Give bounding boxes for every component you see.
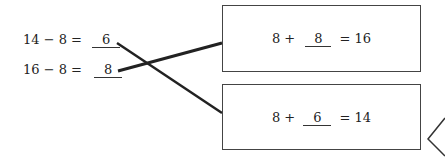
line-16-8-to-box-16	[118, 43, 222, 71]
equation-expression: 14 − 8 =	[23, 32, 82, 47]
left-equation-2: 16 − 8 = 8	[23, 62, 122, 78]
left-equation-1: 14 − 8 = 6	[23, 32, 120, 48]
partial-shape-edge	[428, 118, 445, 156]
line-14-8-to-box-14	[117, 43, 222, 113]
box-suffix: = 16	[340, 31, 372, 46]
box-suffix: = 14	[340, 110, 372, 125]
box-equation: 8 + 8 = 16	[223, 31, 420, 47]
box-equation: 8 + 6 = 14	[223, 110, 420, 126]
equation-expression: 16 − 8 =	[23, 62, 82, 77]
answer-box-2[interactable]: 8 + 6 = 14	[222, 84, 421, 150]
box-prefix: 8 +	[272, 110, 295, 125]
answer-blank[interactable]: 6	[303, 111, 331, 126]
answer-blank[interactable]: 8	[94, 63, 122, 78]
box-prefix: 8 +	[272, 31, 295, 46]
answer-box-1[interactable]: 8 + 8 = 16	[222, 5, 421, 72]
answer-blank[interactable]: 8	[305, 32, 331, 47]
answer-blank[interactable]: 6	[92, 33, 120, 48]
